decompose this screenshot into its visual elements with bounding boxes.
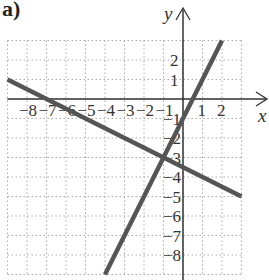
x-tick-label: 2 — [217, 101, 226, 120]
y-tick-label: −5 — [163, 188, 181, 207]
x-tick-label: 1 — [198, 101, 207, 120]
x-tick-label: −2 — [136, 101, 154, 120]
x-tick-label: −3 — [117, 101, 135, 120]
y-tick-label: −8 — [163, 246, 181, 265]
x-tick-label: −4 — [97, 101, 116, 120]
y-tick-label: 1 — [170, 71, 179, 90]
y-tick-label: −7 — [163, 227, 182, 246]
x-axis-label: x — [257, 105, 267, 126]
y-tick-label: −6 — [163, 207, 181, 226]
coordinate-plot: xy−8−7−6−5−4−3−2−11221−1−2−3−4−5−6−7−8 — [0, 0, 269, 280]
y-axis-label: y — [162, 3, 173, 24]
x-tick-label: −8 — [19, 101, 37, 120]
y-tick-label: 2 — [170, 51, 179, 70]
y-tick-label: −4 — [163, 168, 182, 187]
